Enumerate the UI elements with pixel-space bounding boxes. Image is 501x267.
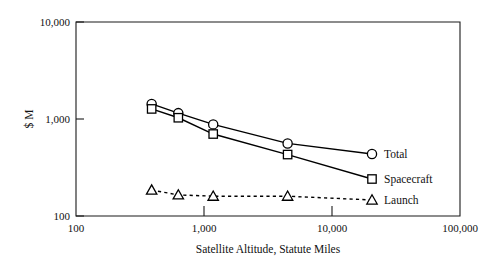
y-axis-ticks	[76, 22, 84, 216]
chart-legend: TotalSpacecraftLaunch	[367, 148, 434, 206]
x-tick-label-10000: 10,000	[317, 222, 348, 234]
circle-marker-icon	[209, 120, 218, 129]
y-tick-label-100: 100	[54, 210, 71, 222]
plot-frame	[76, 22, 460, 216]
series-launch	[146, 185, 372, 200]
square-marker-icon	[209, 130, 217, 138]
circle-marker-icon	[367, 149, 376, 158]
y-tick-label-1000: 1,000	[45, 113, 70, 125]
y-tick-label-10000: 10,000	[40, 16, 71, 28]
x-axis-title: Satellite Altitude, Statute Miles	[196, 243, 341, 256]
legend-item-spacecraft: Spacecraft	[368, 173, 434, 186]
triangle-marker-icon	[173, 190, 183, 199]
legend-item-launch: Launch	[367, 194, 419, 206]
series-total	[147, 99, 372, 154]
series-line-spacecraft	[152, 109, 372, 179]
chart-canvas: 10,000 1,000 100 100 1,000 10,000 100,00…	[0, 0, 501, 267]
triangle-marker-icon	[367, 195, 377, 204]
circle-marker-icon	[283, 139, 292, 148]
legend-label-total: Total	[384, 148, 407, 160]
axes-box	[76, 22, 460, 216]
legend-label-spacecraft: Spacecraft	[384, 173, 433, 186]
x-axis-ticks	[204, 206, 332, 216]
y-axis-title: $ M	[23, 110, 35, 129]
chart-container: 10,000 1,000 100 100 1,000 10,000 100,00…	[0, 0, 501, 267]
square-marker-icon	[283, 150, 291, 158]
series-layer	[146, 99, 372, 200]
legend-label-launch: Launch	[384, 194, 419, 206]
series-spacecraft	[147, 105, 372, 179]
square-marker-icon	[368, 175, 376, 183]
x-tick-label-1000: 1,000	[192, 222, 217, 234]
series-line-total	[152, 104, 372, 154]
square-marker-icon	[174, 114, 182, 122]
triangle-marker-icon	[146, 185, 156, 194]
series-line-launch	[152, 190, 372, 200]
square-marker-icon	[147, 105, 155, 113]
x-tick-label-100: 100	[68, 222, 85, 234]
triangle-marker-icon	[282, 191, 292, 200]
x-tick-label-100000: 100,000	[442, 222, 478, 234]
legend-item-total: Total	[367, 148, 407, 160]
